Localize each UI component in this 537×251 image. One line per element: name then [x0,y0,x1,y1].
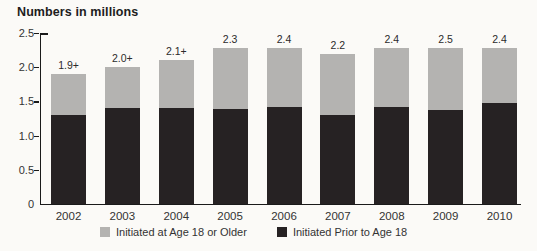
x-tick-label: 2004 [163,210,189,222]
bar-group: 1.9+2002 [51,33,86,204]
x-tick-label: 2009 [433,210,459,222]
y-axis-labels: 2.52.01.51.00.50 [0,33,34,204]
bar-total-label: 2.2 [320,39,355,51]
x-tick-label: 2003 [110,210,136,222]
bar-total-label: 2.4 [374,33,409,45]
legend-item: Initiated Prior to Age 18 [277,226,407,238]
bar-group: 2.42008 [374,33,409,204]
bar-group: 2.0+2003 [105,33,140,204]
chart-figure: Numbers in millions 2.52.01.51.00.50 1.9… [0,0,537,251]
y-tick-mark [34,67,39,68]
plot-area: 1.9+20022.0+20032.1+20042.320052.420062.… [40,33,521,205]
bar-segment-age18-or-older [320,54,355,116]
y-tick-label: 0.5 [0,164,34,176]
bar-segment-age18-or-older [51,74,86,115]
bars-container: 1.9+20022.0+20032.1+20042.320052.420062.… [41,33,521,204]
bar-group: 2.22007 [320,33,355,204]
bar-segment-age18-or-older [482,48,517,103]
bar-total-label: 2.5 [428,33,463,45]
bar-segment-prior-to-age18 [159,108,194,204]
bar-total-label: 2.4 [267,33,302,45]
x-tick-label: 2006 [271,210,297,222]
x-tick-label: 2007 [325,210,351,222]
bar-segment-age18-or-older [374,48,409,107]
x-tick-label: 2010 [487,210,513,222]
legend-swatch-icon [277,227,287,237]
bar-segment-age18-or-older [105,67,140,108]
legend-item: Initiated at Age 18 or Older [100,226,247,238]
y-tick-mark [34,170,39,171]
legend: Initiated at Age 18 or OlderInitiated Pr… [100,226,407,238]
y-tick-label: 0 [0,198,34,210]
y-tick-label: 2.0 [0,61,34,73]
bar-group: 2.42010 [482,33,517,204]
bar-segment-prior-to-age18 [374,107,409,205]
y-tick-mark [34,33,39,34]
bar-group: 2.1+2004 [159,33,194,204]
bar-segment-prior-to-age18 [51,115,86,204]
bar-segment-prior-to-age18 [213,109,248,204]
bar-segment-prior-to-age18 [267,107,302,205]
bar-segment-age18-or-older [428,48,463,110]
legend-swatch-icon [100,227,110,237]
y-tick-label: 2.5 [0,27,34,39]
bar-group: 2.42006 [267,33,302,204]
bar-total-label: 2.4 [482,33,517,45]
x-tick-label: 2002 [56,210,82,222]
bar-group: 2.52009 [428,33,463,204]
y-tick-mark [34,101,39,102]
bar-total-label: 2.0+ [105,52,140,64]
legend-label: Initiated Prior to Age 18 [293,226,407,238]
y-tick-label: 1.0 [0,130,34,142]
bar-segment-age18-or-older [159,60,194,108]
bar-total-label: 2.1+ [159,45,194,57]
bar-group: 2.32005 [213,33,248,204]
bar-segment-age18-or-older [267,48,302,107]
bar-total-label: 2.3 [213,33,248,45]
x-tick-label: 2005 [217,210,243,222]
legend-label: Initiated at Age 18 or Older [116,226,247,238]
bar-total-label: 1.9+ [51,59,86,71]
y-tick-mark [34,136,39,137]
bar-segment-prior-to-age18 [320,115,355,204]
bar-segment-prior-to-age18 [428,110,463,204]
chart-title: Numbers in millions [17,5,138,19]
bar-segment-prior-to-age18 [105,108,140,204]
y-tick-label: 1.5 [0,95,34,107]
bar-segment-prior-to-age18 [482,103,517,204]
bar-segment-age18-or-older [213,48,248,109]
x-tick-label: 2008 [379,210,405,222]
